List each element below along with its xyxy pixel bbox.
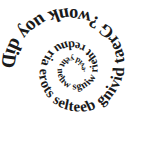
spiral-text-graphic: Didyouknow?Greatdivingbeetlesstoreairund… (0, 0, 153, 141)
spiral-text-svg: Didyouknow?Greatdivingbeetlesstoreairund… (0, 0, 153, 141)
spiral-glyph: e (36, 68, 51, 75)
spiral-glyph: s (72, 80, 76, 91)
spiral-glyph: r (87, 67, 99, 72)
